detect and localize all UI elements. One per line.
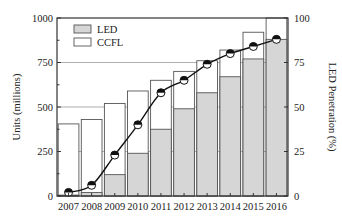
y-axis-title-right: LED Penetration (%) <box>326 62 338 152</box>
x-tick-label: 2015 <box>243 201 264 212</box>
x-tick-label: 2014 <box>220 201 242 212</box>
bar-ccfl-2007 <box>58 124 79 196</box>
y-axis-title-left: Units (millions) <box>11 73 23 140</box>
bar-led-2016 <box>266 39 287 196</box>
x-tick-label: 2010 <box>127 201 148 212</box>
y-tick-label: 1000 <box>32 13 53 24</box>
legend-label-ccfl: CCFL <box>97 37 123 48</box>
bar-led-2013 <box>197 93 218 196</box>
y-tick-label: 500 <box>37 102 53 113</box>
x-tick-label: 2007 <box>58 201 79 212</box>
x-tick-label: 2013 <box>197 201 218 212</box>
legend-swatch-ccfl <box>74 38 91 46</box>
x-tick-label: 2016 <box>266 201 287 212</box>
y2-tick-label: 0 <box>294 191 299 202</box>
bar-led-2012 <box>174 109 195 196</box>
led-ccfl-chart: 02505007501000 0255075100 20072008200920… <box>0 0 342 222</box>
bar-led-2010 <box>128 153 149 196</box>
y2-tick-label: 100 <box>294 13 310 24</box>
bar-led-2015 <box>243 59 264 196</box>
x-tick-label: 2012 <box>174 201 195 212</box>
bar-led-2014 <box>220 77 241 196</box>
bar-led-2011 <box>151 129 172 196</box>
y-tick-label: 250 <box>37 146 53 157</box>
y2-tick-label: 25 <box>294 146 305 157</box>
y2-tick-label: 50 <box>294 102 305 113</box>
x-tick-label: 2009 <box>104 201 125 212</box>
legend: LEDCCFL <box>74 24 123 48</box>
x-tick-label: 2011 <box>151 201 172 212</box>
y-tick-label: 750 <box>37 57 53 68</box>
bar-led-2009 <box>104 175 125 196</box>
y-tick-label: 0 <box>48 191 53 202</box>
chart-container: 02505007501000 0255075100 20072008200920… <box>0 0 342 222</box>
legend-swatch-led <box>74 25 91 33</box>
legend-label-led: LED <box>97 24 118 35</box>
y2-tick-label: 75 <box>294 57 305 68</box>
x-tick-label: 2008 <box>81 201 102 212</box>
